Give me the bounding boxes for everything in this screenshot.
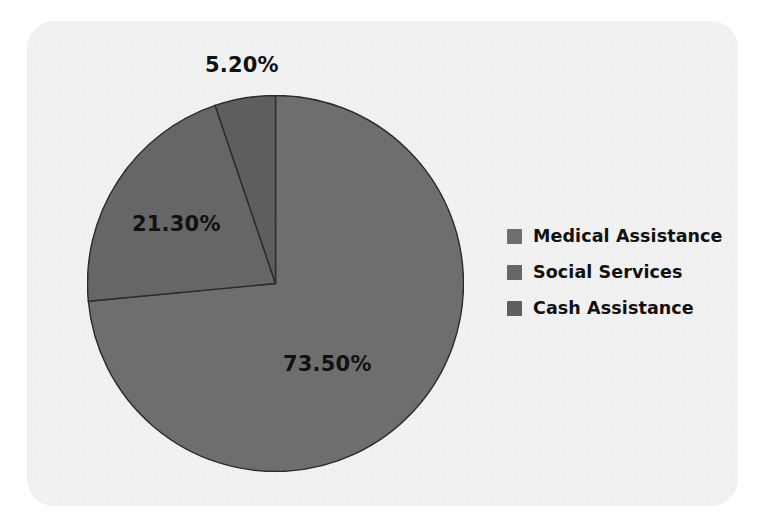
- legend-label-cash-assistance: Cash Assistance: [533, 298, 694, 318]
- pie-chart-svg: [87, 95, 464, 472]
- plot-area: 5.20% 21.30% 73.50% Medical Assistance S…: [28, 22, 737, 505]
- legend-swatch-social-services: [507, 265, 522, 280]
- slice-value-label-medical-assistance: 73.50%: [283, 352, 372, 376]
- legend-item-medical-assistance[interactable]: Medical Assistance: [507, 218, 737, 254]
- legend: Medical Assistance Social Services Cash …: [507, 218, 737, 326]
- chart-screenshot: 5.20% 21.30% 73.50% Medical Assistance S…: [0, 0, 761, 532]
- legend-swatch-cash-assistance: [507, 301, 522, 316]
- legend-label-medical-assistance: Medical Assistance: [533, 226, 723, 246]
- pie-chart: [87, 95, 464, 472]
- legend-item-social-services[interactable]: Social Services: [507, 254, 737, 290]
- slice-value-label-social-services: 21.30%: [132, 212, 221, 236]
- legend-swatch-medical-assistance: [507, 229, 522, 244]
- legend-item-cash-assistance[interactable]: Cash Assistance: [507, 290, 737, 326]
- legend-label-social-services: Social Services: [533, 262, 683, 282]
- slice-value-label-cash-assistance: 5.20%: [205, 53, 279, 77]
